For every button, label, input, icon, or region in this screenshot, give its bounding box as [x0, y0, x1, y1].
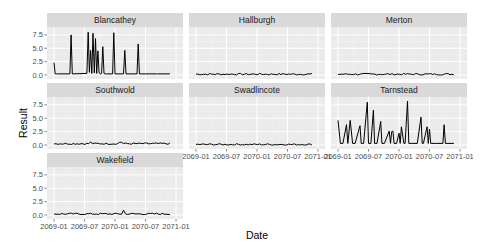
- facet-label: Blancathey: [94, 15, 137, 25]
- x-tick-label: 2070-07: [132, 222, 160, 231]
- y-tick-label: 5.0: [33, 114, 43, 123]
- x-tick-label: 2069-07: [355, 152, 383, 161]
- facet-wakefield: Wakefield0.02.55.07.52069-012069-072070-…: [33, 153, 190, 231]
- facet-blancathey: Blancathey0.02.55.07.5: [33, 13, 183, 80]
- y-tick-label: 2.5: [33, 197, 43, 206]
- x-axis-title: Date: [246, 229, 268, 241]
- facet-swadlincote: Swadlincote2069-012069-072070-012070-072…: [182, 83, 332, 161]
- faceted-line-chart: Blancathey0.02.55.07.5HallburghMertonSou…: [0, 0, 490, 252]
- y-tick-label: 0.0: [33, 71, 43, 80]
- facet-label: Wakefield: [96, 155, 133, 165]
- x-tick-label: 2071-01: [446, 152, 474, 161]
- y-axis-title: Result: [17, 108, 29, 138]
- x-tick-label: 2070-07: [416, 152, 444, 161]
- x-tick-label: 2070-01: [101, 222, 129, 231]
- y-tick-label: 0.0: [33, 211, 43, 220]
- facet-tarnstead: Tarnstead2069-012069-072070-012070-07207…: [324, 83, 474, 161]
- y-tick-label: 7.5: [33, 30, 43, 39]
- y-tick-label: 0.0: [33, 141, 43, 150]
- facet-label: Merton: [386, 15, 413, 25]
- x-tick-label: 2069-01: [324, 152, 352, 161]
- x-tick-label: 2070-01: [243, 152, 271, 161]
- facet-label: Tarnstead: [380, 85, 418, 95]
- x-tick-label: 2069-07: [213, 152, 241, 161]
- y-tick-label: 2.5: [33, 57, 43, 66]
- facet-label: Southwold: [95, 85, 135, 95]
- x-tick-label: 2069-01: [40, 222, 68, 231]
- x-tick-label: 2070-01: [385, 152, 413, 161]
- y-tick-label: 5.0: [33, 184, 43, 193]
- y-tick-label: 5.0: [33, 44, 43, 53]
- x-tick-label: 2069-07: [71, 222, 99, 231]
- facet-southwold: Southwold0.02.55.07.5: [33, 83, 183, 150]
- facet-hallburgh: Hallburgh: [189, 13, 325, 79]
- facet-label: Hallburgh: [239, 15, 276, 25]
- x-tick-label: 2071-01: [162, 222, 190, 231]
- x-tick-label: 2069-01: [182, 152, 210, 161]
- x-tick-label: 2070-07: [274, 152, 302, 161]
- y-tick-label: 2.5: [33, 127, 43, 136]
- y-tick-label: 7.5: [33, 100, 43, 109]
- facet-merton: Merton: [331, 13, 467, 79]
- facet-label: Swadlincote: [234, 85, 280, 95]
- y-tick-label: 7.5: [33, 170, 43, 179]
